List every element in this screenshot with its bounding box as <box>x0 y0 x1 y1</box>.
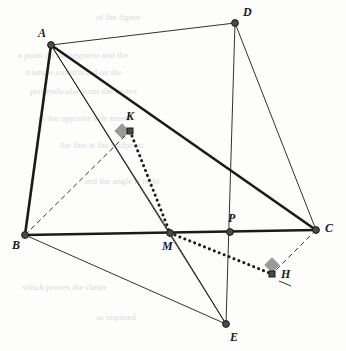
vertex-label-b: B <box>12 239 20 251</box>
vertex-label-p: P <box>228 212 235 224</box>
vertex-label-k: K <box>126 110 134 122</box>
vertex-label-a: A <box>38 27 46 39</box>
vertex-label-m: M <box>162 240 173 252</box>
vertex-labels-layer: ABCDEHKMP <box>0 0 346 351</box>
vertex-label-e: E <box>230 331 238 343</box>
vertex-label-h: H <box>281 268 290 280</box>
vertex-label-d: D <box>243 6 252 18</box>
vertex-label-c: C <box>325 222 333 234</box>
geometry-figure: ABCDEHKMP of the figurea point on the se… <box>0 0 346 351</box>
